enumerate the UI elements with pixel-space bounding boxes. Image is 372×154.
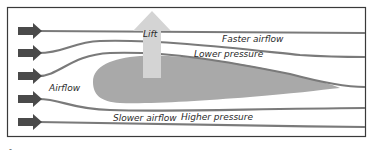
label-slower-airflow: Slower airflow xyxy=(113,113,177,123)
label-faster-airflow: Faster airflow xyxy=(222,34,284,44)
label-higher-pressure: Higher pressure xyxy=(181,112,254,122)
airfoil-diagram: Lift Faster airflow Lower pressure Airfl… xyxy=(0,0,372,154)
label-lower-pressure: Lower pressure xyxy=(194,49,264,59)
label-airflow: Airflow xyxy=(48,83,81,93)
footer-mark: - xyxy=(9,145,12,154)
label-lift: Lift xyxy=(143,29,158,39)
